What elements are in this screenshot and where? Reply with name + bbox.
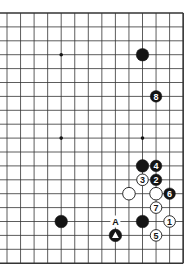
move-number: 7 (154, 203, 159, 213)
black-stone (55, 215, 68, 228)
go-board: A 84326715 (0, 0, 189, 270)
black-stone-disc (136, 48, 149, 61)
move-number: 1 (167, 217, 172, 227)
grid-lines (0, 13, 183, 263)
white-stone-disc (123, 187, 136, 200)
letter-marker-a: A (112, 217, 119, 227)
move-number: 4 (154, 161, 159, 171)
black-stone-disc (136, 215, 149, 228)
black-stone-disc (55, 215, 68, 228)
star-point (59, 53, 63, 57)
move-number: 5 (154, 231, 159, 241)
black-stone (109, 229, 122, 242)
white-stone-5: 5 (150, 230, 162, 242)
move-number: 8 (154, 92, 159, 102)
move-number: 2 (154, 175, 159, 185)
star-point (141, 136, 145, 140)
white-stone (123, 187, 136, 200)
black-stone-4: 4 (150, 160, 162, 172)
white-stone (150, 187, 163, 200)
move-number: 3 (140, 175, 145, 185)
white-stone-1: 1 (164, 216, 176, 228)
black-stone (136, 48, 149, 61)
letter-markers: A (112, 217, 119, 227)
black-stone (136, 160, 149, 173)
move-number: 6 (167, 189, 172, 199)
black-stone-6: 6 (164, 188, 176, 200)
black-stone-8: 8 (150, 91, 162, 103)
black-stone (136, 215, 149, 228)
black-stone-disc (136, 160, 149, 173)
white-stone-3: 3 (137, 174, 149, 186)
white-stone-7: 7 (150, 202, 162, 214)
black-stone-2: 2 (150, 174, 162, 186)
star-point (59, 136, 63, 140)
white-stone-disc (150, 187, 163, 200)
